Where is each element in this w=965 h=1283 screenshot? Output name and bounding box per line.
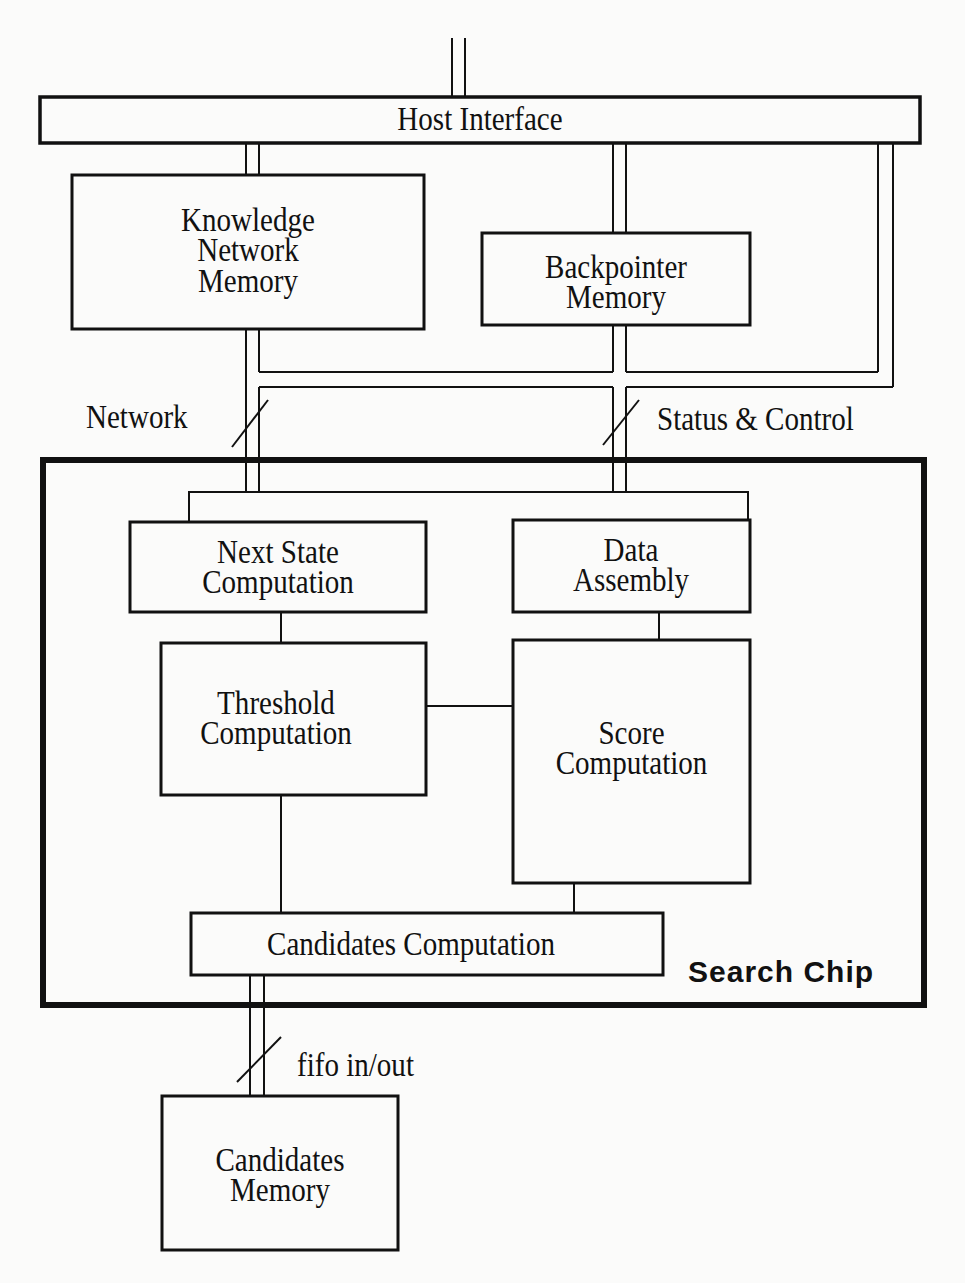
da-line-1: Data bbox=[503, 535, 758, 565]
next-state-computation-block: Next State Computation bbox=[148, 537, 408, 598]
backpointer-memory-block: Backpointer Memory bbox=[498, 252, 734, 313]
bpm-line-2: Memory bbox=[498, 282, 734, 312]
cm-line-2: Memory bbox=[176, 1175, 384, 1205]
knm-line-3: Memory bbox=[93, 266, 403, 296]
knm-line-2: Network bbox=[93, 235, 403, 265]
score-computation-block: Score Computation bbox=[527, 718, 736, 779]
da-line-2: Assembly bbox=[503, 565, 758, 595]
threshold-computation-block: Threshold Computation bbox=[175, 688, 377, 749]
knowledge-network-memory-block: Knowledge Network Memory bbox=[93, 205, 403, 296]
sc-line-1: Score bbox=[527, 718, 736, 748]
nsc-line-2: Computation bbox=[148, 567, 408, 597]
diagram-canvas bbox=[0, 0, 965, 1283]
candidates-computation-label: Candidates Computation bbox=[217, 929, 604, 959]
data-assembly-block: Data Assembly bbox=[503, 535, 758, 596]
search-chip-label: Search Chip bbox=[688, 958, 874, 986]
nsc-line-1: Next State bbox=[148, 537, 408, 567]
knm-line-1: Knowledge bbox=[93, 205, 403, 235]
tc-line-1: Threshold bbox=[175, 688, 377, 718]
sc-line-2: Computation bbox=[527, 748, 736, 778]
candidates-memory-block: Candidates Memory bbox=[176, 1145, 384, 1206]
status-control-bus-label: Status & Control bbox=[657, 404, 854, 434]
bpm-line-1: Backpointer bbox=[498, 252, 734, 282]
cm-line-1: Candidates bbox=[176, 1145, 384, 1175]
host-interface-label: Host Interface bbox=[93, 104, 867, 134]
network-bus-label: Network bbox=[86, 402, 188, 432]
tc-line-2: Computation bbox=[175, 718, 377, 748]
fifo-bus-label: fifo in/out bbox=[297, 1050, 414, 1080]
